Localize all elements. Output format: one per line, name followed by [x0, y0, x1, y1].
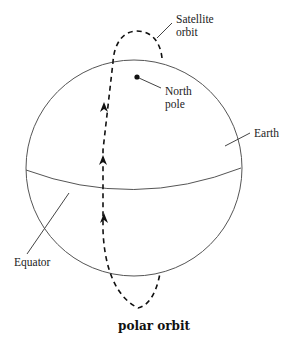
equator-label: Equator	[14, 256, 51, 269]
earth-leader	[225, 133, 250, 146]
polar-orbit-diagram: Satellite orbit North pole Earth Equator…	[0, 0, 292, 343]
north-pole-label-line2: pole	[165, 98, 185, 111]
orbit-arrow-icon	[99, 155, 107, 165]
satellite-orbit-label-line1: Satellite	[176, 13, 214, 25]
diagram-caption: polar orbit	[118, 319, 191, 333]
north-pole-leader	[139, 78, 161, 88]
orbit-arrow-icon	[100, 213, 108, 223]
earth-sphere	[26, 60, 242, 276]
satellite-orbit-path	[103, 31, 162, 308]
satellite-orbit-label-line2: orbit	[176, 26, 199, 38]
equator-line	[26, 168, 241, 190]
earth-label: Earth	[254, 127, 279, 139]
equator-leader	[27, 193, 69, 254]
north-pole-label-line1: North	[165, 85, 192, 97]
orbit-arrow-icon	[100, 102, 108, 112]
north-pole-dot	[134, 74, 139, 79]
satellite-orbit-leader	[157, 23, 172, 38]
